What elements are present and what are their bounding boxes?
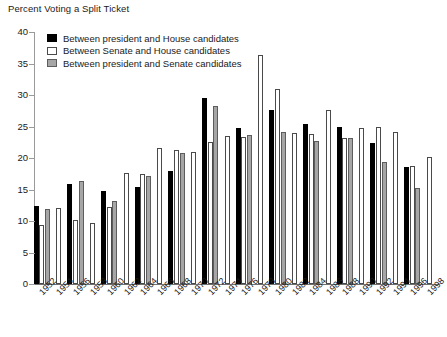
bar <box>90 223 95 284</box>
bar <box>348 138 353 284</box>
y-tick-mark <box>29 253 35 254</box>
bar <box>157 148 162 284</box>
bar <box>168 171 173 284</box>
bar <box>241 137 246 284</box>
bar <box>180 153 185 284</box>
bar <box>67 184 72 284</box>
x-axis-tick-labels: 1952195419561958196019621964196619681970… <box>34 286 439 336</box>
bar <box>247 135 252 284</box>
bar <box>314 141 319 284</box>
bar <box>79 181 84 284</box>
bar <box>427 157 432 284</box>
chart-legend: Between president and House candidatesBe… <box>47 32 242 70</box>
legend-swatch-icon <box>47 47 57 55</box>
bar <box>174 150 179 284</box>
y-tick-label: 10 <box>2 216 28 225</box>
bar <box>337 127 342 285</box>
bar <box>39 225 44 284</box>
bar <box>225 136 230 284</box>
bar <box>275 89 280 284</box>
legend-label: Between Senate and House candidates <box>63 45 230 56</box>
bar <box>112 201 117 284</box>
bar <box>34 206 39 284</box>
y-tick-label: 35 <box>2 59 28 68</box>
bar <box>124 173 129 285</box>
bar <box>326 110 331 285</box>
bar <box>191 152 196 284</box>
bar <box>101 191 106 284</box>
split-ticket-bar-chart: Percent Voting a Split Ticket 0510152025… <box>0 0 447 337</box>
y-tick-label: 5 <box>2 248 28 257</box>
bar <box>236 128 241 284</box>
legend-swatch-icon <box>47 59 57 67</box>
y-tick-mark <box>29 221 35 222</box>
bar <box>135 187 140 284</box>
y-tick-mark <box>29 32 35 33</box>
bar <box>146 176 151 284</box>
bar <box>140 174 145 284</box>
y-tick-label: 25 <box>2 122 28 131</box>
bar <box>404 167 409 284</box>
bar <box>107 207 112 284</box>
y-tick-mark <box>29 127 35 128</box>
bar <box>376 127 381 285</box>
y-tick-label: 15 <box>2 185 28 194</box>
bar <box>382 162 387 284</box>
y-axis-tick-labels: 0510152025303540 <box>0 0 28 337</box>
y-tick-mark <box>29 64 35 65</box>
legend-label: Between president and Senate candidates <box>63 58 242 69</box>
y-tick-label: 40 <box>2 27 28 36</box>
bar <box>410 166 415 284</box>
legend-item: Between president and Senate candidates <box>47 57 242 70</box>
bar <box>359 128 364 284</box>
y-tick-label: 30 <box>2 90 28 99</box>
bar <box>45 209 50 284</box>
y-tick-mark <box>29 190 35 191</box>
bar <box>370 143 375 284</box>
bar <box>208 142 213 284</box>
legend-item: Between president and House candidates <box>47 32 242 45</box>
bar <box>309 134 314 284</box>
y-tick-mark <box>29 95 35 96</box>
bar <box>213 106 218 284</box>
bar <box>303 124 308 284</box>
bar <box>73 220 78 284</box>
y-tick-mark <box>29 158 35 159</box>
y-tick-label: 20 <box>2 153 28 162</box>
legend-label: Between president and House candidates <box>63 33 239 44</box>
bar <box>292 133 297 284</box>
bar <box>342 138 347 284</box>
plot-area <box>34 32 438 284</box>
bar <box>202 98 207 284</box>
bars-layer <box>34 32 438 284</box>
bar <box>415 188 420 284</box>
y-tick-mark <box>29 284 35 285</box>
legend-swatch-icon <box>47 34 57 42</box>
legend-item: Between Senate and House candidates <box>47 45 242 58</box>
y-tick-label: 0 <box>2 279 28 288</box>
bar <box>281 132 286 284</box>
bar <box>258 55 263 284</box>
bar <box>269 110 274 285</box>
bar <box>56 208 61 284</box>
bar <box>393 132 398 284</box>
